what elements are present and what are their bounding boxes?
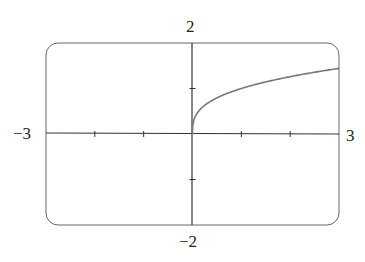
graph-plot [0, 0, 365, 262]
x-min-label: −3 [13, 125, 31, 142]
x-max-label: 3 [346, 127, 355, 144]
function-curve [193, 68, 340, 134]
y-max-label: 2 [186, 18, 195, 35]
y-min-label: −2 [179, 233, 197, 250]
